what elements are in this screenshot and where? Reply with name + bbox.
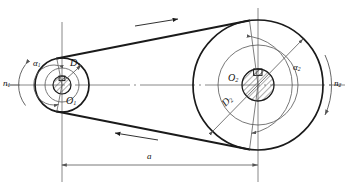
label-alpha2: α2 [293,63,301,73]
belt-top-direction-arrow [135,19,178,26]
belt-bottom-direction-arrow [115,133,158,140]
label-alpha1: α1 [33,59,41,69]
label-o1: O1 [66,96,76,107]
belt-upper-run [57,21,250,59]
large-pulley-keyway [254,69,262,75]
diagram-canvas [0,0,351,192]
belt-drive-diagram: n1 n2 α1 α2 O1 O2 D1 D2 a [0,0,351,192]
label-d1: D1 [70,58,80,69]
label-n1: n1 [3,79,10,89]
small-pulley-keyway [59,76,65,81]
label-o2: O2 [228,73,238,84]
label-n2: n2 [334,79,341,89]
label-center-distance: a [147,152,152,161]
belt-lower-run [57,112,250,150]
